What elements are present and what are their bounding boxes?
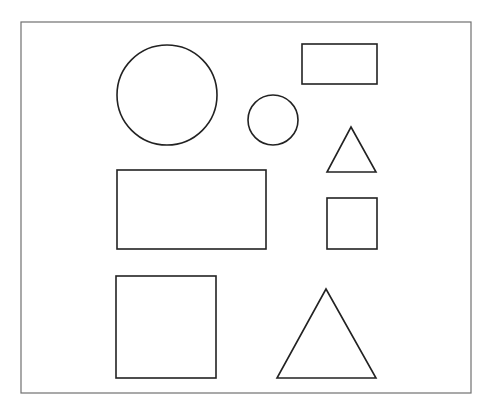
shapes-diagram — [0, 0, 490, 414]
small-circle — [248, 95, 298, 145]
diagram-frame — [21, 22, 471, 393]
large-triangle — [277, 289, 376, 378]
small-triangle — [327, 127, 376, 172]
large-square — [116, 276, 216, 378]
shapes-layer — [116, 44, 377, 378]
wide-rectangle — [117, 170, 266, 249]
large-circle — [117, 45, 217, 145]
small-square — [327, 198, 377, 249]
top-rectangle — [302, 44, 377, 84]
